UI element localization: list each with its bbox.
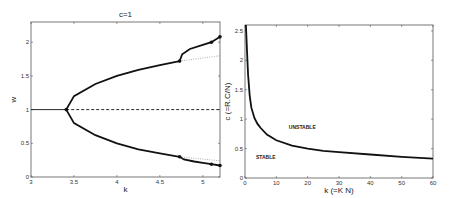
y-axis-label: w: [9, 96, 18, 103]
x-axis-label: k: [124, 185, 129, 194]
data-series: [180, 37, 220, 61]
x-tick-label: 4: [115, 179, 119, 185]
chart-title: c=1: [119, 10, 133, 19]
y-axis-label: c (=R.C/N): [223, 82, 232, 120]
x-tick-label: 5: [201, 179, 205, 185]
x-tick-label: 3.5: [70, 179, 79, 185]
bifurcation-plot: 33.544.5500.511.52kwc=1: [9, 10, 222, 194]
y-tick-label: 1.5: [235, 87, 244, 93]
y-tick-label: 0.5: [21, 140, 30, 146]
y-tick-label: 1: [26, 107, 30, 113]
data-series: [66, 110, 179, 157]
data-series: [180, 157, 220, 166]
x-tick-label: 10: [273, 180, 280, 186]
y-tick-label: 1: [240, 116, 244, 122]
bifurcation-point-marker: [218, 164, 222, 168]
x-tick-label: 60: [430, 180, 437, 186]
x-tick-label: 0: [243, 180, 247, 186]
bifurcation-point-marker: [64, 108, 68, 112]
axes-frame: [31, 22, 220, 177]
region-label: UNSTABLE: [289, 124, 317, 130]
bifurcation-point-marker: [218, 35, 222, 39]
x-tick-label: 40: [367, 180, 374, 186]
y-tick-label: 2: [240, 57, 244, 63]
x-tick-label: 4.5: [156, 179, 165, 185]
x-tick-label: 50: [398, 180, 405, 186]
y-tick-label: 2: [26, 39, 30, 45]
bifurcation-point-marker: [178, 155, 182, 159]
bifurcation-point-marker: [210, 40, 214, 44]
y-tick-label: 1.5: [21, 73, 30, 79]
bifurcation-point-marker: [178, 59, 182, 63]
data-series: [246, 25, 433, 159]
figure: 33.544.5500.511.52kwc=1 010203040506000.…: [0, 0, 452, 198]
bifurcation-point-marker: [210, 162, 214, 166]
x-axis-label: k (=K N): [324, 186, 354, 195]
y-tick-label: 2.5: [235, 28, 244, 34]
y-tick-label: 0.5: [235, 146, 244, 152]
region-label: STABLE: [256, 154, 276, 160]
x-tick-label: 20: [304, 180, 311, 186]
data-series: [180, 56, 220, 61]
data-series: [66, 61, 179, 110]
stability-plot: 010203040506000.511.522.5k (=K N)c (=R.C…: [223, 25, 437, 195]
x-tick-label: 3: [29, 179, 33, 185]
